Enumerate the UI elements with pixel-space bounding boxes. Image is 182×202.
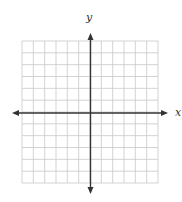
y-axis-label: y (85, 11, 93, 24)
x-axis-right-arrow-icon (161, 110, 168, 116)
axes (12, 33, 168, 194)
coordinate-plane: x y (0, 0, 182, 202)
x-axis-label: x (175, 106, 182, 119)
y-axis-up-arrow-icon (88, 33, 94, 40)
y-axis-down-arrow-icon (88, 187, 94, 194)
x-axis-left-arrow-icon (12, 110, 19, 116)
